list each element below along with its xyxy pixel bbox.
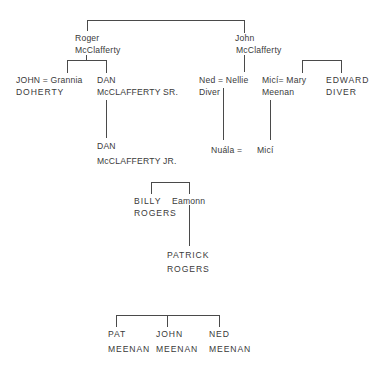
name-line: Micí= Mary — [262, 74, 306, 86]
name-line: DIVER — [326, 86, 369, 98]
person-dan-mcclafferty-jr: DAN McCLAFFERTY JR. — [97, 140, 177, 167]
name-line: MEENAN — [108, 343, 150, 355]
name-line: Eamonn — [172, 195, 205, 207]
person-ned-meenan: NED MEENAN — [209, 328, 251, 355]
name-line: EDWARD — [326, 74, 369, 86]
person-billy-rogers: BILLY ROGERS — [134, 195, 177, 219]
name-line: McClafferty — [75, 44, 121, 56]
name-line: ROGERS — [167, 263, 210, 275]
person-roger-mcclafferty: Roger McClafferty — [75, 32, 121, 56]
person-john-meenan: JOHN MEENAN — [156, 328, 198, 355]
name-line: MEENAN — [209, 343, 251, 355]
person-mici-child: Micí — [257, 144, 274, 156]
name-line: NED — [209, 328, 251, 340]
name-line: McCLAFFERTY JR. — [97, 155, 177, 167]
person-edward-diver: EDWARD DIVER — [326, 74, 369, 98]
name-line: MEENAN — [156, 343, 198, 355]
couple-mici-mary-meenan: Micí= Mary Meenan — [262, 74, 306, 98]
name-line: PAT — [108, 328, 150, 340]
name-line: DAN — [97, 74, 178, 86]
name-line: John — [235, 32, 282, 44]
name-line: McClafferty — [236, 44, 282, 56]
connector-lines — [0, 0, 382, 369]
person-dan-mcclafferty-sr: DAN McCLAFFERTY SR. — [97, 74, 178, 98]
person-pat-meenan: PAT MEENAN — [108, 328, 150, 355]
name-line: Diver — [199, 86, 248, 98]
family-tree-diagram: Roger McClafferty John McClafferty JOHN … — [0, 0, 382, 369]
couple-ned-nellie-diver: Ned = Nellie Diver — [199, 74, 248, 98]
person-john-mcclafferty: John McClafferty — [235, 32, 282, 56]
name-line: JOHN = Grannia — [16, 74, 83, 86]
name-line: Ned = Nellie — [199, 74, 248, 86]
name-line: ROGERS — [134, 207, 177, 219]
name-line: Micí — [257, 144, 274, 156]
name-line: PATRICK — [167, 249, 210, 261]
name-line: Meenan — [262, 86, 306, 98]
name-line: DOHERTY — [16, 86, 83, 98]
name-line: Roger — [75, 32, 121, 44]
name-line: DAN — [97, 140, 177, 152]
couple-john-grannia-doherty: JOHN = Grannia DOHERTY — [16, 74, 83, 98]
name-line: McCLAFFERTY SR. — [97, 86, 178, 98]
person-nuala: Nuála = — [211, 144, 242, 156]
name-line: BILLY — [134, 195, 177, 207]
person-patrick-rogers: PATRICK ROGERS — [167, 249, 210, 275]
name-line: JOHN — [156, 328, 198, 340]
person-eamonn: Eamonn — [172, 195, 205, 207]
name-line: Nuála = — [211, 144, 242, 156]
